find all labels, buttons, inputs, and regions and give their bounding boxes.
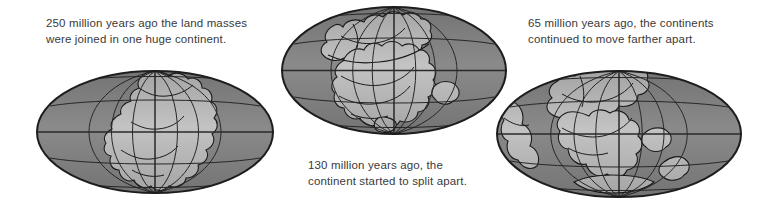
globe-130ma	[281, 6, 507, 135]
globe-130ma-svg	[281, 6, 507, 135]
globe-250ma-svg	[36, 70, 274, 194]
globe-65ma-svg	[496, 70, 742, 198]
caption-130ma: 130 million years ago, the continent sta…	[308, 158, 473, 189]
caption-65ma: 65 million years ago, the continents con…	[528, 16, 743, 47]
caption-250ma: 250 million years ago the land masses we…	[46, 16, 256, 47]
globe-250ma	[36, 70, 274, 194]
continental-drift-figure: 250 million years ago the land masses we…	[0, 0, 759, 216]
globe-65ma	[496, 70, 742, 198]
